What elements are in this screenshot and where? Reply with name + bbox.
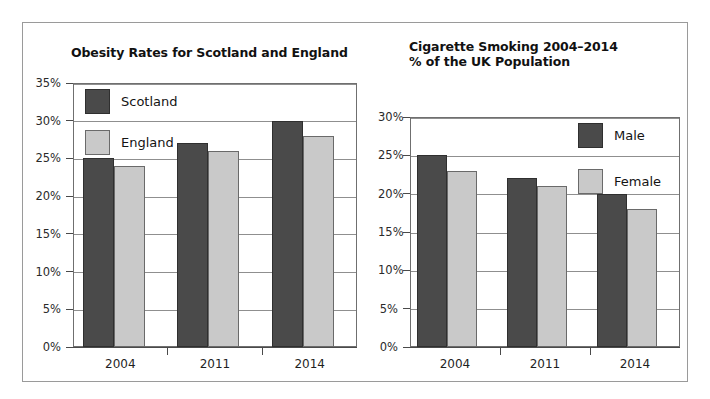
- y-axis-label: 30%: [23, 114, 61, 128]
- x-axis-tick: [590, 348, 591, 355]
- x-axis-label: 2011: [500, 357, 590, 371]
- y-axis-tick: [66, 233, 73, 234]
- x-axis-label: 2004: [410, 357, 500, 371]
- bar: [447, 171, 477, 347]
- y-axis-label: 0%: [378, 340, 398, 354]
- y-axis-label: 30%: [378, 110, 398, 124]
- x-axis-tick: [262, 348, 263, 355]
- y-axis-tick: [403, 193, 410, 194]
- bar: [417, 155, 447, 347]
- y-axis-label: 5%: [378, 302, 398, 316]
- y-axis-label: 25%: [23, 151, 61, 165]
- bar: [507, 178, 537, 347]
- chart-panel-smoking: Cigarette Smoking 2004–2014 % of the UK …: [378, 23, 689, 381]
- y-axis-label: 35%: [23, 76, 61, 90]
- y-axis-tick: [403, 308, 410, 309]
- gridline: [74, 84, 356, 85]
- y-axis-tick: [403, 155, 410, 156]
- y-axis-tick: [403, 270, 410, 271]
- y-axis-tick: [66, 83, 73, 84]
- bar: [177, 143, 208, 347]
- legend-label: Female: [614, 174, 661, 189]
- y-axis-tick: [66, 271, 73, 272]
- figure-frame: Obesity Rates for Scotland and England 0…: [22, 22, 688, 382]
- gridline: [411, 156, 679, 157]
- gridline: [411, 118, 679, 119]
- x-axis-label: 2014: [262, 357, 357, 371]
- legend-label: England: [121, 135, 174, 150]
- legend-label: Scotland: [121, 94, 178, 109]
- legend-swatch-icon: [578, 123, 603, 148]
- y-axis-label: 15%: [378, 225, 398, 239]
- legend-item-england[interactable]: England: [85, 130, 174, 155]
- y-axis-tick: [403, 232, 410, 233]
- legend-item-scotland[interactable]: Scotland: [85, 89, 178, 114]
- legend-swatch-icon: [85, 130, 110, 155]
- x-axis-tick: [500, 348, 501, 355]
- gridline: [74, 121, 356, 122]
- chart-title-smoking-line2: % of the UK Population: [409, 54, 618, 69]
- chart-title-smoking: Cigarette Smoking 2004–2014 % of the UK …: [409, 39, 618, 69]
- x-axis-line: [66, 347, 357, 348]
- x-axis-label: 2011: [168, 357, 263, 371]
- bar: [272, 121, 303, 347]
- y-axis-tick: [66, 309, 73, 310]
- bar: [537, 186, 567, 347]
- chart-panel-obesity: Obesity Rates for Scotland and England 0…: [23, 23, 378, 381]
- bar: [303, 136, 334, 347]
- bar: [208, 151, 239, 347]
- y-axis-label: 5%: [23, 302, 61, 316]
- y-axis-label: 10%: [378, 263, 398, 277]
- y-axis-label: 20%: [23, 189, 61, 203]
- bar: [627, 209, 657, 347]
- chart-title-smoking-line1: Cigarette Smoking 2004–2014: [409, 39, 618, 54]
- y-axis-tick: [66, 196, 73, 197]
- y-axis-label: 10%: [23, 265, 61, 279]
- bar: [597, 194, 627, 347]
- x-axis-label: 2014: [590, 357, 680, 371]
- x-axis-label: 2004: [73, 357, 168, 371]
- bar: [114, 166, 145, 347]
- x-axis-line: [403, 347, 680, 348]
- y-axis-tick: [403, 117, 410, 118]
- y-axis-tick: [66, 120, 73, 121]
- bar: [83, 158, 114, 347]
- chart-title-obesity: Obesity Rates for Scotland and England: [71, 45, 348, 60]
- x-axis-tick: [167, 348, 168, 355]
- y-axis-tick: [66, 158, 73, 159]
- y-axis-label: 15%: [23, 227, 61, 241]
- legend-item-male[interactable]: Male: [578, 123, 645, 148]
- legend-item-female[interactable]: Female: [578, 169, 661, 194]
- legend-swatch-icon: [578, 169, 603, 194]
- y-axis-label: 20%: [378, 187, 398, 201]
- legend-swatch-icon: [85, 89, 110, 114]
- y-axis-label: 0%: [23, 340, 61, 354]
- y-axis-label: 25%: [378, 148, 398, 162]
- legend-label: Male: [614, 128, 645, 143]
